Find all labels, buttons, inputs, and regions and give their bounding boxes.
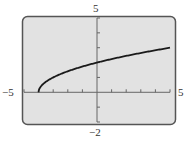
graphing-calculator-screen: 5 −5 5 −2 xyxy=(0,0,191,141)
y-min-label: −2 xyxy=(89,127,101,138)
y-max-label: 5 xyxy=(93,3,99,14)
x-min-label: −5 xyxy=(2,87,14,98)
plot-area xyxy=(0,0,191,141)
x-max-label: 5 xyxy=(178,87,184,98)
